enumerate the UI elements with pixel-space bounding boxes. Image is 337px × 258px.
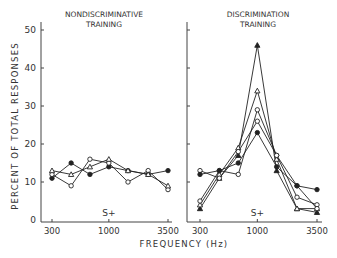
data-point	[165, 183, 170, 188]
data-point	[217, 168, 221, 172]
data-point	[126, 180, 130, 184]
data-point	[274, 153, 278, 157]
panel-title: TRAINING	[239, 20, 276, 29]
x-tick-label: 1000	[247, 226, 269, 236]
x-tick-label: 1000	[98, 226, 120, 236]
panel-title: TRAINING	[85, 20, 122, 29]
x-tick-label: 3500	[306, 226, 328, 236]
x-axis-label: FREQUENCY (Hz)	[140, 239, 229, 249]
data-point	[198, 199, 202, 203]
data-point	[255, 88, 260, 93]
y-tick-label: 40	[25, 63, 37, 73]
series-line	[200, 45, 317, 212]
chart: PERCENT OF TOTAL RESPONSES FREQUENCY (Hz…	[0, 0, 337, 258]
data-point	[106, 157, 111, 162]
series-open-triangle	[197, 88, 319, 210]
data-point	[198, 172, 202, 176]
y-tick-label: 10	[25, 177, 37, 187]
data-point	[69, 161, 73, 165]
y-tick-label: 20	[25, 139, 37, 149]
y-tick-label: 50	[25, 25, 37, 35]
data-point	[255, 130, 259, 134]
x-tick-label: 300	[192, 226, 208, 236]
data-point	[295, 184, 299, 188]
data-point	[217, 176, 221, 180]
data-point	[236, 161, 240, 165]
panel-title: DISCRIMINATION	[227, 10, 290, 19]
panel-2: 30010003500S+DISCRIMINATIONTRAINING	[187, 10, 328, 236]
x-tick-label: 3500	[157, 226, 179, 236]
series-open-circle	[50, 157, 170, 192]
y-tick-label: 30	[25, 101, 37, 111]
y-tick-label: 0	[30, 215, 36, 225]
data-point	[274, 165, 278, 169]
panel-1: 0102030405030010003500S+NONDISCRIMINATIV…	[25, 10, 179, 236]
data-point	[236, 172, 240, 176]
y-axis-label: PERCENT OF TOTAL RESPONSES	[10, 42, 20, 210]
data-point	[255, 108, 259, 112]
data-point	[315, 206, 319, 210]
data-point	[255, 119, 259, 123]
data-point	[166, 168, 170, 172]
data-point	[88, 157, 92, 161]
data-point	[295, 195, 299, 199]
panel-title: NONDISCRIMINATIVE	[65, 10, 143, 19]
data-point	[236, 149, 240, 153]
data-point	[88, 172, 92, 176]
data-point	[255, 43, 260, 48]
s-plus-annotation: S+	[102, 208, 115, 218]
data-point	[315, 187, 319, 191]
x-tick-label: 300	[44, 226, 60, 236]
series-filled-triangle	[197, 43, 319, 215]
s-plus-annotation: S+	[251, 208, 264, 218]
data-point	[49, 168, 54, 173]
data-point	[69, 184, 73, 188]
